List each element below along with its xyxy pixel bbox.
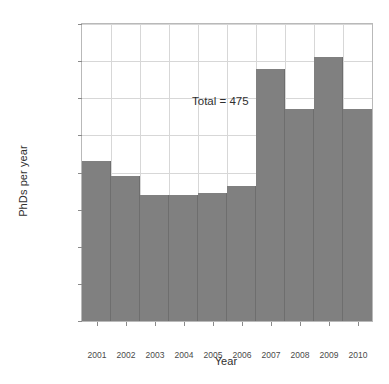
x-tick-mark bbox=[126, 322, 127, 326]
bar bbox=[111, 176, 140, 321]
y-tick-mark bbox=[78, 210, 82, 211]
bar-chart: PhDs per year 01020304050607080 20012002… bbox=[0, 0, 389, 384]
bar bbox=[198, 193, 227, 321]
y-tick-mark bbox=[78, 321, 82, 322]
y-tick-mark bbox=[78, 284, 82, 285]
bar bbox=[256, 69, 285, 321]
bar bbox=[140, 195, 169, 321]
bar bbox=[82, 161, 111, 321]
x-tick-mark bbox=[329, 322, 330, 326]
y-tick-mark bbox=[78, 24, 82, 25]
x-tick-mark bbox=[300, 322, 301, 326]
y-tick-mark bbox=[78, 173, 82, 174]
y-tick-mark bbox=[78, 61, 82, 62]
x-axis-title: Year bbox=[81, 355, 371, 367]
bar bbox=[343, 109, 372, 321]
y-tick-mark bbox=[78, 98, 82, 99]
x-tick-mark bbox=[155, 322, 156, 326]
bar bbox=[227, 186, 256, 322]
x-tick-mark bbox=[184, 322, 185, 326]
bar bbox=[314, 57, 343, 321]
plot-area: 01020304050607080 2001200220032004200520… bbox=[81, 23, 373, 322]
x-tick-mark bbox=[97, 322, 98, 326]
bar bbox=[169, 195, 198, 321]
y-tick-mark bbox=[78, 135, 82, 136]
y-tick-mark bbox=[78, 247, 82, 248]
x-tick-mark bbox=[358, 322, 359, 326]
x-tick-mark bbox=[242, 322, 243, 326]
total-annotation: Total = 475 bbox=[192, 95, 249, 107]
bar bbox=[285, 109, 314, 321]
y-axis-title: PhDs per year bbox=[17, 111, 29, 251]
x-tick-mark bbox=[213, 322, 214, 326]
x-tick-mark bbox=[271, 322, 272, 326]
